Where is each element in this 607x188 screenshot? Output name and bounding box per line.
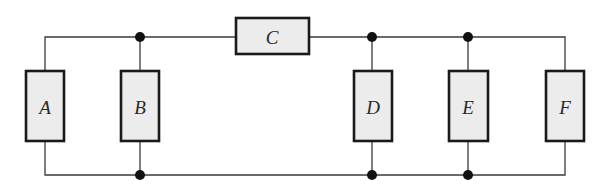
circuit-diagram: A B C D E F xyxy=(0,0,607,188)
component-a: A xyxy=(26,71,64,141)
component-b-label: B xyxy=(134,97,146,118)
junction-dot xyxy=(367,32,377,42)
component-e: E xyxy=(449,71,488,141)
component-f: F xyxy=(546,71,584,141)
wire-top-right xyxy=(309,37,565,71)
component-d: D xyxy=(354,71,392,141)
junction-dot xyxy=(463,170,473,180)
junction-dot xyxy=(367,170,377,180)
component-f-label: F xyxy=(558,97,571,118)
component-c-label: C xyxy=(266,27,279,48)
component-a-label: A xyxy=(37,97,51,118)
wire-bottom xyxy=(45,141,565,175)
junction-dot xyxy=(135,32,145,42)
component-e-label: E xyxy=(461,97,474,118)
junction-dot xyxy=(463,32,473,42)
component-c: C xyxy=(236,18,309,54)
component-b: B xyxy=(121,71,159,141)
component-d-label: D xyxy=(365,97,380,118)
junction-dot xyxy=(135,170,145,180)
